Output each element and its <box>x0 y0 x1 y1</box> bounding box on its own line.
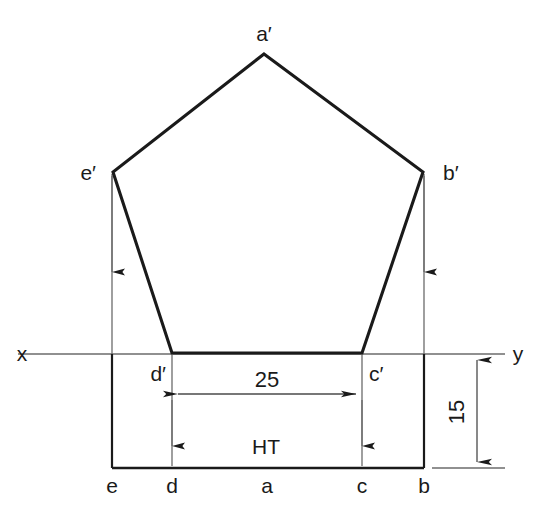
axis-label-x: x <box>17 342 28 365</box>
label-ht: HT <box>252 435 280 458</box>
label-a-prime: a′ <box>256 22 272 45</box>
label-e-prime: e′ <box>80 161 96 184</box>
label-b: b <box>418 474 430 497</box>
engineering-drawing-svg: x y <box>0 0 552 513</box>
label-a: a <box>261 474 273 497</box>
label-d-prime: d′ <box>150 362 166 385</box>
label-d: d <box>166 474 178 497</box>
label-e: e <box>106 474 118 497</box>
axis-label-y: y <box>513 342 524 365</box>
label-b-prime: b′ <box>443 161 459 184</box>
label-c: c <box>357 474 368 497</box>
drawing-canvas: x y <box>0 0 552 513</box>
label-c-prime: c′ <box>369 362 384 385</box>
dimension-15-value: 15 <box>444 400 469 424</box>
dimension-25-value: 25 <box>255 367 279 392</box>
